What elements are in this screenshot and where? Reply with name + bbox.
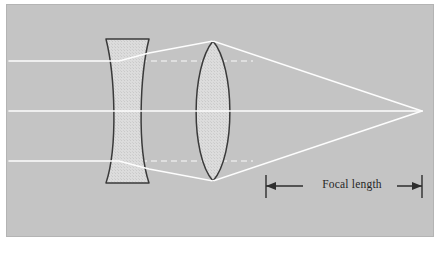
focal-length-label: Focal length bbox=[307, 177, 397, 191]
optics-figure: Focal length bbox=[0, 0, 439, 254]
focal-dimension-left-arrowhead bbox=[266, 182, 276, 190]
ray-diagram-svg bbox=[7, 5, 433, 236]
focal-dimension-right-arrowhead bbox=[412, 182, 422, 190]
diagram-panel: Focal length bbox=[6, 4, 434, 237]
